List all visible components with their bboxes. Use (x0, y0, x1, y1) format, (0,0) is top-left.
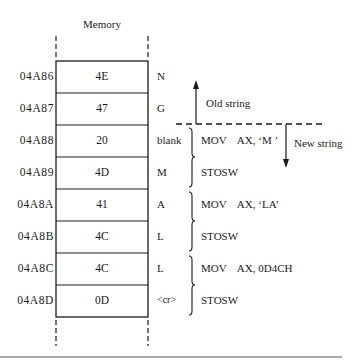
address-label: 04A8B (6, 230, 54, 242)
instruction-stosw: STOSW (201, 230, 238, 242)
address-label: 04A88 (6, 134, 54, 146)
char-label: L (157, 262, 164, 274)
brace-group-2 (189, 192, 195, 251)
memory-title: Memory (56, 18, 148, 30)
char-label: M (157, 166, 167, 178)
address-label: 04A8C (6, 262, 54, 274)
old-string-label: Old string (206, 97, 250, 109)
memory-value: 4E (56, 70, 148, 82)
memory-value: 41 (56, 198, 148, 210)
instruction-mov: MOV AX, 0D4CH (201, 262, 292, 274)
char-label: A (157, 198, 165, 210)
memory-value: 4C (56, 230, 148, 242)
address-label: 04A89 (6, 166, 54, 178)
address-label: 04A8D (6, 294, 54, 306)
char-label: G (157, 102, 165, 114)
arrow-down-icon (283, 124, 289, 168)
address-label: 04A86 (6, 70, 54, 82)
char-label: <cr> (157, 294, 176, 305)
memory-value: 47 (56, 102, 148, 114)
memory-value: 0D (56, 294, 148, 306)
char-label: L (157, 230, 164, 242)
memory-value: 4D (56, 166, 148, 178)
instruction-stosw: STOSW (201, 166, 238, 178)
new-string-label: New string (294, 137, 343, 149)
instruction-stosw: STOSW (201, 294, 238, 306)
address-label: 04A87 (6, 102, 54, 114)
instruction-mov: MOV AX, ‘M ’ (201, 134, 278, 146)
memory-value: 20 (56, 134, 148, 146)
char-label: N (157, 70, 165, 82)
brace-group-3 (189, 256, 195, 315)
char-label: blank (157, 134, 181, 146)
brace-group-1 (189, 128, 195, 187)
memory-value: 4C (56, 262, 148, 274)
memory-diagram-graphics (0, 0, 355, 362)
instruction-mov: MOV AX, ‘LA’ (201, 198, 279, 210)
row-separators (56, 93, 148, 285)
address-label: 04A8A (6, 198, 54, 210)
arrow-up-icon (193, 80, 199, 124)
